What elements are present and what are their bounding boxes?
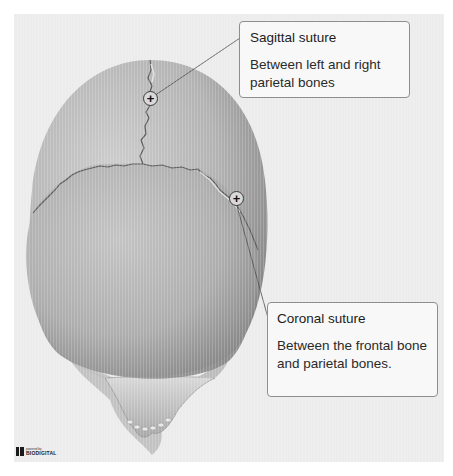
plus-icon: +: [147, 92, 155, 105]
callout-description: Between the frontal bone and parietal bo…: [277, 337, 428, 372]
callout-description: Between left and right parietal bones: [250, 56, 399, 91]
callout-title: Sagittal suture: [250, 30, 399, 46]
callout-title: Coronal suture: [277, 311, 428, 327]
frontal-bone: [26, 164, 258, 379]
logo-name: BIODIGITAL: [26, 451, 57, 456]
sagittal-suture-callout: Sagittal suture Between left and right p…: [239, 21, 410, 98]
sagittal-suture-marker[interactable]: +: [143, 91, 158, 106]
coronal-suture-marker[interactable]: +: [229, 191, 244, 206]
biodigital-logo: powered by BIODIGITAL: [16, 447, 57, 456]
plus-icon: +: [233, 192, 241, 205]
coronal-suture-callout: Coronal suture Between the frontal bone …: [267, 302, 438, 397]
biodigital-logo-icon: [16, 447, 24, 456]
